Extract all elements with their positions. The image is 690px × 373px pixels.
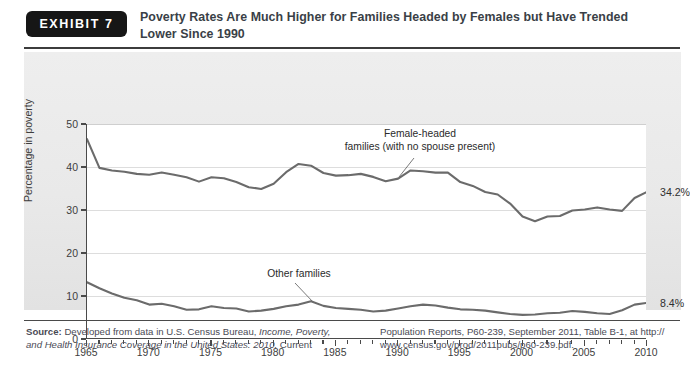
chart-panel: Percentage in poverty 01020304050 196519… <box>24 52 681 310</box>
x-tick-1987 <box>360 340 361 344</box>
source-left-2-italic: and Health Insurance Coverage in the Uni… <box>26 339 277 350</box>
end-label-other-families: 8.4% <box>660 297 684 309</box>
annotation-female-headed-line-2: families (with no spouse present) <box>345 141 496 154</box>
source-left-2-plain: Current <box>277 339 312 350</box>
annotation-female-headed-line-1: Female-headed <box>345 128 496 141</box>
source-left-1-plain: Developed from data in U.S. Census Burea… <box>62 326 259 337</box>
source-text-right: Population Reports, P60-239, September 2… <box>380 326 680 351</box>
plot-inner <box>87 124 646 338</box>
source-label: Source: <box>26 326 62 337</box>
x-tick-1988 <box>372 340 373 344</box>
header-divider <box>24 47 680 49</box>
y-tick-label-50: 50 <box>54 118 78 130</box>
series-lines <box>87 124 646 338</box>
source-left-1-italic: Income, Poverty, <box>259 326 330 337</box>
y-tick-label-10: 10 <box>54 290 78 302</box>
plot-area <box>86 124 646 339</box>
annotation-other-families: Other families <box>267 268 331 281</box>
y-tick-label-30: 30 <box>54 204 78 216</box>
source-text-left: Source: Developed from data in U.S. Cens… <box>26 326 356 351</box>
source-right-1: Population Reports, P60-239, September 2… <box>380 326 664 337</box>
y-axis-label: Percentage in poverty <box>22 99 34 202</box>
exhibit-header: EXHIBIT 7 Poverty Rates Are Much Higher … <box>0 0 685 50</box>
exhibit-title: Poverty Rates Are Much Higher for Famili… <box>140 9 660 42</box>
annotation-other-families-line-1: Other families <box>267 268 331 281</box>
source-right-2: www.census.gov/prod/2011pubs/p60-239.pdf… <box>380 339 574 350</box>
y-tick-label-20: 20 <box>54 247 78 259</box>
y-tick-label-40: 40 <box>54 161 78 173</box>
exhibit-badge: EXHIBIT 7 <box>26 11 127 37</box>
source-divider <box>24 320 680 321</box>
annotation-female-headed: Female-headedfamilies (with no spouse pr… <box>345 128 496 153</box>
end-label-female-headed: 34.2% <box>660 186 690 198</box>
series-line-1 <box>87 282 646 315</box>
